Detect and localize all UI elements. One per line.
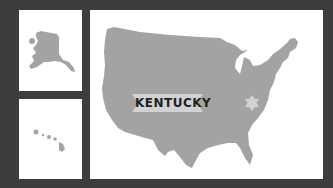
hawaii-shape (19, 99, 82, 179)
state-name-label: KENTUCKY (135, 96, 200, 110)
us-map-shape (90, 10, 323, 179)
hawaii-inset-panel (19, 99, 82, 179)
alaska-shape (19, 10, 82, 91)
contiguous-us-panel: KENTUCKY (90, 10, 323, 179)
alaska-inset-panel (19, 10, 82, 91)
